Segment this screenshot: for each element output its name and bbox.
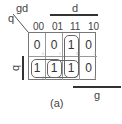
cell-0: 00: [29, 33, 46, 57]
cell-value: 0: [85, 61, 92, 75]
col-header-11: 11: [70, 21, 80, 32]
figure-caption: (a): [50, 97, 63, 109]
d-bar: [50, 14, 98, 16]
group-loop-q-01-11: [47, 60, 79, 78]
cell-6: 06: [80, 56, 97, 80]
cell-value: 0: [85, 38, 92, 52]
cell-1: 01: [46, 33, 63, 57]
q-bar-label: q: [9, 65, 21, 71]
cell-value: 0: [51, 38, 58, 52]
col-header-10: 10: [88, 21, 99, 32]
col-header-01: 01: [52, 21, 63, 32]
cell-index: 6: [94, 75, 96, 80]
cell-value: 0: [34, 38, 41, 52]
cell-2: 02: [80, 33, 97, 57]
g-bar-label: g: [94, 89, 100, 101]
q-bar: [22, 56, 24, 80]
corner-diagonal-line: [12, 12, 30, 34]
g-bar: [73, 86, 121, 88]
d-bar-label: d: [72, 2, 78, 14]
col-header-00: 00: [33, 21, 44, 32]
karnaugh-map-grid: 00 01 13 02 14 15 17 06: [28, 32, 96, 80]
